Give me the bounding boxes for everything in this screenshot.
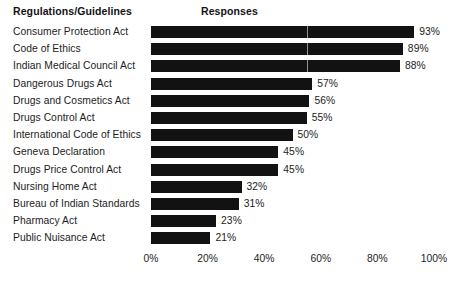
bar-row: Pharmacy Act23% <box>0 213 465 230</box>
category-label: Bureau of Indian Standards <box>13 197 147 210</box>
x-axis-tick-label: 40% <box>254 252 275 265</box>
bar-track <box>151 60 434 72</box>
bar <box>151 112 307 124</box>
bar-value-label: 21% <box>215 231 236 244</box>
bar <box>151 95 309 107</box>
bar-row: Bureau of Indian Standards31% <box>0 196 465 213</box>
bar-row: Drugs Price Control Act45% <box>0 162 465 179</box>
bar-track <box>151 26 434 38</box>
bar-row: Nursing Home Act32% <box>0 179 465 196</box>
bar-value-label: 88% <box>405 59 426 72</box>
bar <box>151 26 414 38</box>
category-label: Dangerous Drugs Act <box>13 77 147 90</box>
category-label: Consumer Protection Act <box>13 25 147 38</box>
bar-value-label: 57% <box>317 77 338 90</box>
bar <box>151 198 239 210</box>
x-axis: 0%20%40%60%80%100% <box>0 252 465 272</box>
bar <box>151 215 216 227</box>
bar <box>151 232 210 244</box>
bar-track <box>151 232 434 244</box>
bar-value-label: 45% <box>283 145 304 158</box>
category-label: Indian Medical Council Act <box>13 59 147 72</box>
bar <box>151 60 400 72</box>
category-label: Public Nuisance Act <box>13 231 147 244</box>
category-label: Pharmacy Act <box>13 214 147 227</box>
responses-column-title: Responses <box>201 5 258 17</box>
bar-chart: Regulations/Guidelines Responses Consume… <box>0 0 465 284</box>
bar-track <box>151 112 434 124</box>
bar-track <box>151 215 434 227</box>
bar <box>151 78 312 90</box>
bar-value-label: 50% <box>298 128 319 141</box>
bar-row: Dangerous Drugs Act57% <box>0 76 465 93</box>
category-label: Drugs and Cosmetics Act <box>13 94 147 107</box>
bar-row: Consumer Protection Act93% <box>0 24 465 41</box>
bar-row: Code of Ethics89% <box>0 41 465 58</box>
bar <box>151 146 278 158</box>
category-label: Code of Ethics <box>13 42 147 55</box>
bar-track <box>151 43 434 55</box>
bar-row: Drugs and Cosmetics Act56% <box>0 93 465 110</box>
plot-area: Consumer Protection Act93%Code of Ethics… <box>0 24 465 250</box>
bar-value-label: 32% <box>247 180 268 193</box>
bar-track <box>151 129 434 141</box>
category-label: Drugs Price Control Act <box>13 163 147 176</box>
categories-column-title: Regulations/Guidelines <box>13 5 132 17</box>
x-axis-tick-label: 100% <box>421 252 448 265</box>
bar-row: Public Nuisance Act21% <box>0 230 465 247</box>
category-label: International Code of Ethics <box>13 128 147 141</box>
bar <box>151 181 242 193</box>
bar-value-label: 23% <box>221 214 242 227</box>
x-axis-tick-label: 0% <box>144 252 159 265</box>
bar-row: Drugs Control Act55% <box>0 110 465 127</box>
bar-value-label: 55% <box>312 111 333 124</box>
bar <box>151 164 278 176</box>
bar-track <box>151 181 434 193</box>
bar-value-label: 56% <box>314 94 335 107</box>
bar-value-label: 89% <box>408 42 429 55</box>
bar-value-label: 93% <box>419 25 440 38</box>
chart-header: Regulations/Guidelines Responses <box>0 0 465 22</box>
x-axis-tick-label: 80% <box>367 252 388 265</box>
bar-track <box>151 78 434 90</box>
bar-track <box>151 95 434 107</box>
bar-row: Indian Medical Council Act88% <box>0 58 465 75</box>
bar-value-label: 45% <box>283 163 304 176</box>
bar-row: Geneva Declaration45% <box>0 144 465 161</box>
bar <box>151 43 403 55</box>
category-label: Geneva Declaration <box>13 145 147 158</box>
x-axis-tick-label: 60% <box>310 252 331 265</box>
bar-row: International Code of Ethics50% <box>0 127 465 144</box>
x-axis-tick-label: 20% <box>197 252 218 265</box>
bar <box>151 129 293 141</box>
bar-track <box>151 198 434 210</box>
category-label: Nursing Home Act <box>13 180 147 193</box>
bar-value-label: 31% <box>244 197 265 210</box>
category-label: Drugs Control Act <box>13 111 147 124</box>
